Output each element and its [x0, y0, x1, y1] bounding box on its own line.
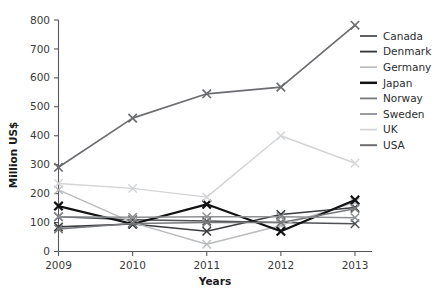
- data-point-uk-2012: [277, 132, 285, 140]
- data-point-germany-2011: [203, 240, 211, 248]
- legend-item-norway[interactable]: Norway: [360, 92, 423, 104]
- data-series-group: [54, 21, 359, 248]
- legend-item-denmark[interactable]: Denmark: [360, 45, 432, 57]
- data-point-uk-2013: [351, 159, 359, 167]
- legend-label-usa: USA: [383, 139, 406, 151]
- line-chart: 0100200300400500600700800 20092010201120…: [0, 0, 447, 297]
- x-tick-label: 2010: [119, 259, 146, 271]
- y-tick-label: 100: [30, 216, 50, 228]
- x-tick-label: 2013: [342, 259, 369, 271]
- legend-label-germany: Germany: [383, 61, 431, 73]
- legend-label-norway: Norway: [383, 92, 423, 104]
- figure-container: 0100200300400500600700800 20092010201120…: [0, 0, 447, 297]
- legend-item-usa[interactable]: USA: [360, 139, 406, 151]
- y-tick-label: 200: [30, 187, 50, 199]
- x-axis-ticks: 20092010201120122013: [45, 252, 368, 272]
- series-uk: [54, 132, 359, 202]
- series-line-usa: [59, 25, 356, 167]
- legend-label-japan: Japan: [382, 77, 412, 89]
- x-tick-label: 2012: [268, 259, 295, 271]
- y-tick-label: 600: [30, 71, 50, 83]
- y-tick-label: 700: [30, 43, 50, 55]
- legend-item-sweden[interactable]: Sweden: [360, 108, 425, 120]
- x-axis-title: Years: [198, 275, 231, 287]
- x-tick-label: 2009: [45, 259, 72, 271]
- data-point-usa-2010: [128, 114, 136, 122]
- legend-item-japan[interactable]: Japan: [360, 77, 412, 89]
- y-tick-label: 400: [30, 129, 50, 141]
- data-point-usa-2013: [351, 21, 359, 29]
- y-tick-label: 500: [30, 100, 50, 112]
- y-tick-label: 300: [30, 158, 50, 170]
- chart-legend: CanadaDenmarkGermanyJapanNorwaySwedenUKU…: [360, 30, 432, 151]
- legend-item-canada[interactable]: Canada: [360, 30, 423, 42]
- y-axis-title: Million US$: [7, 122, 19, 189]
- series-line-uk: [59, 136, 356, 197]
- y-tick-label: 0: [43, 245, 50, 257]
- series-usa: [54, 21, 359, 171]
- x-tick-label: 2011: [193, 259, 220, 271]
- legend-item-germany[interactable]: Germany: [360, 61, 431, 73]
- legend-label-canada: Canada: [383, 30, 423, 42]
- legend-label-sweden: Sweden: [383, 108, 425, 120]
- legend-item-uk[interactable]: UK: [360, 123, 399, 135]
- legend-label-denmark: Denmark: [383, 45, 432, 57]
- legend-label-uk: UK: [383, 123, 399, 135]
- y-tick-label: 800: [30, 14, 50, 26]
